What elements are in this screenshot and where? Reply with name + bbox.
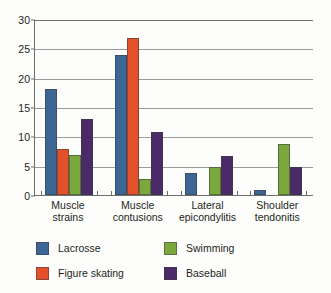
y-axis-tick-label-25: 25 xyxy=(18,44,30,55)
bar-chart-figure: 051015202530 MusclestrainsMusclecontusio… xyxy=(0,0,331,293)
legend-item-lacrosse[interactable]: Lacrosse xyxy=(36,242,164,255)
plot-area: 051015202530 xyxy=(34,20,313,196)
bar-figure-skating xyxy=(127,38,139,195)
bar-group xyxy=(185,20,233,195)
legend-swatch-icon xyxy=(164,267,177,280)
legend-label: Baseball xyxy=(186,268,226,279)
bar-baseball xyxy=(151,132,163,195)
bar-lacrosse xyxy=(115,55,127,195)
bar-baseball xyxy=(81,119,93,195)
legend-item-swimming[interactable]: Swimming xyxy=(164,242,292,255)
category-label-line: Shoulder xyxy=(217,200,331,212)
legend-label: Swimming xyxy=(186,243,234,254)
y-axis-tick-label-15: 15 xyxy=(18,103,30,114)
y-axis-tick-label-20: 20 xyxy=(18,73,30,84)
legend-label: Lacrosse xyxy=(58,243,101,254)
x-axis-tick-mark xyxy=(97,191,98,195)
x-axis-tick-mark xyxy=(237,191,238,195)
x-axis-tick-mark xyxy=(111,191,112,195)
legend-swatch-icon xyxy=(36,267,49,280)
bar-figure-skating xyxy=(57,149,69,195)
x-axis-tick-mark xyxy=(41,191,42,195)
bar-swimming xyxy=(69,155,81,195)
legend-swatch-icon xyxy=(164,242,177,255)
x-axis-tick-mark xyxy=(250,191,251,195)
y-axis-tick-label-5: 5 xyxy=(24,161,30,172)
bars-layer xyxy=(35,20,313,195)
category-label-3: Shouldertendonitis xyxy=(217,200,331,223)
category-label-line: tendonitis xyxy=(217,212,331,224)
bar-lacrosse xyxy=(45,89,57,195)
bar-baseball xyxy=(290,167,302,195)
bar-group xyxy=(45,20,93,195)
legend-item-baseball[interactable]: Baseball xyxy=(164,267,292,280)
bar-group xyxy=(115,20,163,195)
x-axis-tick-mark xyxy=(306,191,307,195)
y-axis-tick-label-10: 10 xyxy=(18,132,30,143)
y-axis-tick-label-30: 30 xyxy=(18,15,30,26)
y-axis-tick-mark-0 xyxy=(31,196,35,197)
chart-legend: LacrosseSwimmingFigure skatingBaseball xyxy=(36,242,306,280)
bar-baseball xyxy=(221,156,233,195)
legend-swatch-icon xyxy=(36,242,49,255)
legend-item-figure-skating[interactable]: Figure skating xyxy=(36,267,164,280)
bar-swimming xyxy=(209,167,221,195)
bar-group xyxy=(254,20,302,195)
bar-swimming xyxy=(278,144,290,195)
bar-lacrosse xyxy=(254,190,266,195)
x-axis-tick-mark xyxy=(181,191,182,195)
bar-swimming xyxy=(139,179,151,195)
legend-label: Figure skating xyxy=(58,268,124,279)
bar-lacrosse xyxy=(185,173,197,195)
x-axis-tick-mark xyxy=(167,191,168,195)
